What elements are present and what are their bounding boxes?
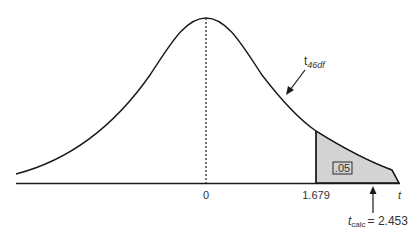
tcalc-arrow-head-icon [370, 186, 377, 194]
curve-label: t46df [304, 54, 326, 70]
tick-label-0: 0 [203, 189, 209, 201]
t-distribution-chart: .05 0 1.679 t t46df tcalc= 2.453 [0, 0, 416, 238]
x-axis-label: t [398, 189, 402, 201]
tcalc-label: tcalc= 2.453 [348, 214, 408, 229]
curve-label-arrow [290, 70, 305, 90]
area-label: .05 [335, 162, 350, 174]
tick-label-critical: 1.679 [302, 189, 330, 201]
arrow-head-icon [286, 86, 294, 95]
